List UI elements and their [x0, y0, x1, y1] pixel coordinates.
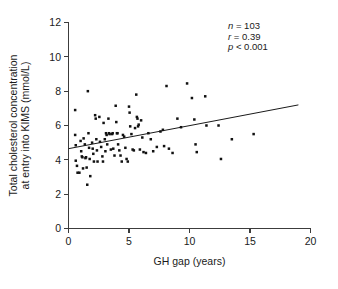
regression-line	[69, 105, 299, 149]
scatter-plot-figure: 02468101205101520 GH gap (years)Total ch…	[0, 0, 338, 289]
data-point	[168, 147, 171, 150]
data-point	[107, 117, 110, 120]
data-point	[205, 124, 208, 127]
data-point	[86, 183, 89, 186]
regression-line-group	[69, 105, 299, 149]
data-point	[105, 134, 108, 137]
data-point	[159, 130, 162, 133]
data-point	[110, 148, 113, 151]
x-tick-label-5: 5	[126, 235, 132, 247]
data-point	[74, 109, 77, 112]
p-value-value: < 0.001	[233, 41, 268, 52]
data-point	[147, 132, 150, 135]
data-point	[102, 122, 105, 125]
data-point	[75, 144, 78, 147]
data-point	[93, 160, 96, 163]
data-point	[141, 136, 144, 139]
data-point	[139, 148, 142, 151]
y-tick-label-2: 2	[55, 188, 61, 200]
data-point	[79, 140, 82, 143]
data-point	[180, 126, 183, 129]
data-point	[87, 132, 90, 135]
y-tick-label-0: 0	[55, 222, 61, 234]
data-point	[76, 165, 79, 168]
data-point	[100, 146, 103, 149]
data-point	[194, 143, 197, 146]
data-point	[80, 150, 83, 153]
data-point	[119, 154, 122, 157]
data-point	[82, 137, 85, 140]
data-point	[96, 160, 99, 163]
data-point	[171, 152, 174, 155]
data-point	[116, 132, 119, 135]
x-tick-label-10: 10	[184, 235, 196, 247]
data-point	[78, 171, 81, 174]
data-point	[125, 158, 128, 161]
data-point	[130, 133, 133, 136]
data-point	[118, 149, 121, 152]
data-point	[99, 141, 102, 144]
sample-size-value: = 103	[233, 20, 260, 31]
x-tick-label-15: 15	[244, 235, 256, 247]
data-point	[220, 158, 223, 161]
data-point	[128, 105, 131, 108]
y-tick-label-6: 6	[55, 119, 61, 131]
data-point	[112, 147, 115, 150]
data-point	[123, 135, 126, 138]
data-point	[85, 156, 88, 159]
data-point	[91, 141, 94, 144]
sample-size: n = 103	[228, 20, 260, 31]
y-tick-label-10: 10	[49, 51, 61, 63]
x-tick-label-0: 0	[66, 235, 72, 247]
data-point	[142, 151, 145, 154]
data-point	[124, 147, 127, 150]
y-tick-label-8: 8	[55, 85, 61, 97]
data-point	[156, 146, 159, 149]
data-point	[75, 159, 78, 162]
data-point	[252, 133, 255, 136]
data-point	[133, 149, 136, 152]
data-point	[152, 150, 155, 153]
data-point	[106, 143, 109, 146]
statistics-annotation-group: n = 103r = 0.39p < 0.001	[227, 20, 268, 52]
data-point	[115, 121, 118, 124]
data-point	[145, 152, 148, 155]
data-point	[140, 119, 143, 122]
y-axis-title-line2: at entry into KIMS (mmol/L)	[19, 62, 31, 190]
data-point	[134, 127, 137, 130]
data-point	[129, 125, 132, 128]
chart-canvas: 02468101205101520 GH gap (years)Total ch…	[0, 0, 338, 289]
p-value: p < 0.001	[227, 41, 268, 52]
correlation-coefficient: r = 0.39	[228, 31, 261, 42]
data-point	[120, 160, 123, 163]
data-point	[95, 138, 98, 141]
data-point	[176, 117, 179, 120]
data-point	[137, 123, 140, 126]
data-point	[88, 147, 91, 150]
data-point	[91, 147, 94, 150]
data-point	[117, 143, 120, 146]
data-point	[136, 117, 139, 120]
data-point	[108, 133, 111, 136]
data-point	[98, 116, 101, 119]
data-point	[92, 153, 95, 156]
data-point	[104, 150, 107, 153]
data-points-group	[74, 82, 255, 186]
data-point	[128, 111, 131, 114]
data-point	[193, 118, 196, 121]
x-tick-label-20: 20	[305, 235, 317, 247]
data-point	[87, 90, 90, 93]
data-point	[135, 93, 138, 96]
y-tick-label-4: 4	[55, 154, 61, 166]
data-point	[163, 145, 166, 148]
x-axis-title: GH gap (years)	[154, 255, 226, 267]
data-point	[101, 155, 104, 158]
data-point	[162, 129, 165, 132]
data-point	[217, 124, 220, 127]
data-point	[186, 82, 189, 85]
data-point	[191, 97, 194, 100]
data-point	[231, 138, 234, 141]
data-point	[165, 85, 168, 88]
data-point	[84, 143, 87, 146]
data-point	[94, 114, 97, 117]
